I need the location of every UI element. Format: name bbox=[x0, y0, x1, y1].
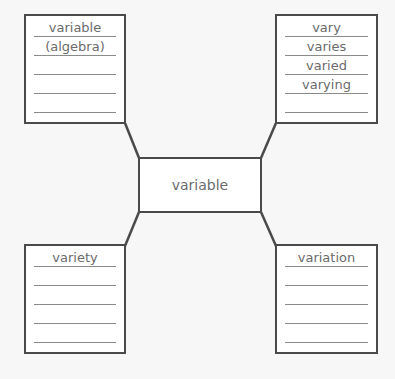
box-line bbox=[34, 75, 116, 94]
box-line bbox=[285, 286, 368, 305]
connector-top-left bbox=[125, 123, 139, 158]
box-line: variety bbox=[34, 248, 116, 267]
box-line bbox=[34, 267, 116, 286]
box-line: varied bbox=[285, 56, 368, 75]
box-line bbox=[285, 324, 368, 343]
center-label: variable bbox=[172, 177, 228, 193]
box-line bbox=[285, 267, 368, 286]
box-line bbox=[34, 56, 116, 75]
center-box: variable bbox=[138, 157, 262, 213]
box-line: varies bbox=[285, 37, 368, 56]
box-top-right: vary varies varied varying bbox=[275, 14, 378, 124]
box-bottom-right: variation bbox=[275, 244, 378, 354]
box-lines: vary varies varied varying bbox=[285, 18, 368, 113]
box-lines: variation bbox=[285, 248, 368, 343]
box-top-left: variable (algebra) bbox=[24, 14, 126, 124]
box-bottom-left: variety bbox=[24, 244, 126, 354]
box-lines: variable (algebra) bbox=[34, 18, 116, 113]
box-line: vary bbox=[285, 18, 368, 37]
connector-bottom-left bbox=[125, 212, 139, 246]
box-line bbox=[285, 94, 368, 113]
connector-bottom-right bbox=[261, 212, 276, 246]
box-line: (algebra) bbox=[34, 37, 116, 56]
box-line: variable bbox=[34, 18, 116, 37]
box-line: varying bbox=[285, 75, 368, 94]
box-line bbox=[285, 305, 368, 324]
box-line bbox=[34, 305, 116, 324]
connector-top-right bbox=[261, 123, 276, 158]
box-line bbox=[34, 286, 116, 305]
box-line: variation bbox=[285, 248, 368, 267]
box-lines: variety bbox=[34, 248, 116, 343]
box-line bbox=[34, 324, 116, 343]
box-line bbox=[34, 94, 116, 113]
